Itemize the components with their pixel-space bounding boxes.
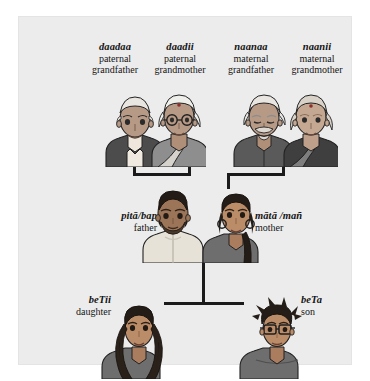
gloss-naanii-line1: maternal [277, 53, 357, 64]
term-naanii: naanii [277, 41, 357, 53]
gloss-daadii-line2: grandmother [141, 64, 219, 75]
connector-paternal-horizontal [133, 173, 191, 176]
connector-maternal-stub-right [282, 167, 285, 174]
figure-naanii [284, 95, 338, 167]
diagram-panel: daadaa paternal grandfather daadii pater… [18, 16, 352, 365]
connector-paternal-stub-right [188, 167, 191, 174]
figure-daadii [152, 95, 206, 167]
connector-parents-vertical [202, 263, 205, 304]
gloss-naanii-line2: grandmother [277, 64, 357, 75]
gloss-daadii-line1: paternal [141, 53, 219, 64]
family-tree-diagram: daadaa paternal grandfather daadii pater… [0, 0, 370, 381]
figure-son [240, 297, 302, 379]
figure-mother [203, 194, 258, 263]
portrait-son [236, 294, 318, 379]
label-naanii: naanii maternal grandmother [277, 41, 357, 75]
label-daadii: daadii paternal grandmother [141, 41, 219, 75]
portrait-parents [141, 180, 267, 263]
connector-paternal-stub-left [133, 167, 136, 174]
portrait-paternal-grandparents [100, 79, 206, 167]
term-daadii: daadii [141, 41, 219, 53]
portrait-daughter [98, 294, 180, 379]
figure-father [143, 191, 203, 263]
portrait-maternal-grandparents [230, 79, 338, 167]
connector-maternal-horizontal [227, 173, 285, 176]
figure-daughter [102, 306, 162, 379]
